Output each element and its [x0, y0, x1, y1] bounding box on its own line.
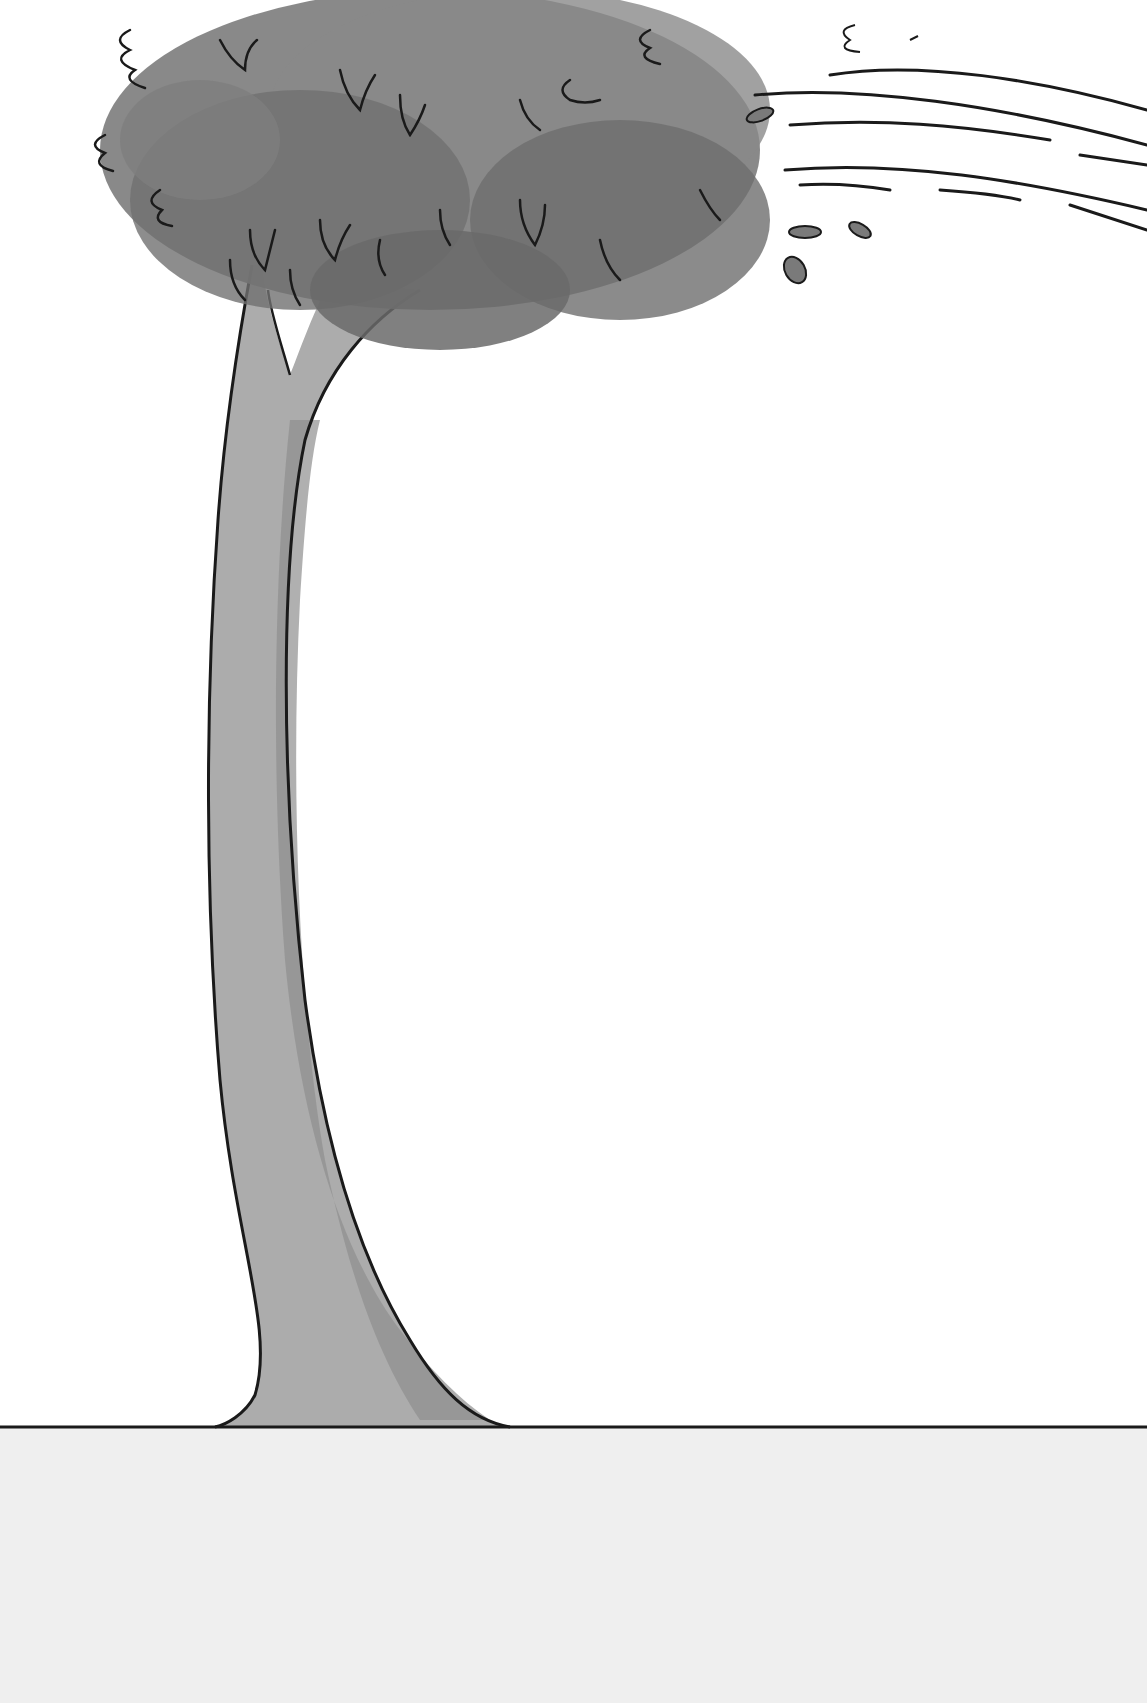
tree-illustration: [0, 0, 1147, 1703]
wind-lines: [755, 70, 1147, 230]
blowing-leaves: [745, 25, 918, 287]
tree-trunk: [208, 265, 510, 1427]
tree-canopy: [95, 0, 770, 350]
illustration-scene: [0, 0, 1147, 1703]
